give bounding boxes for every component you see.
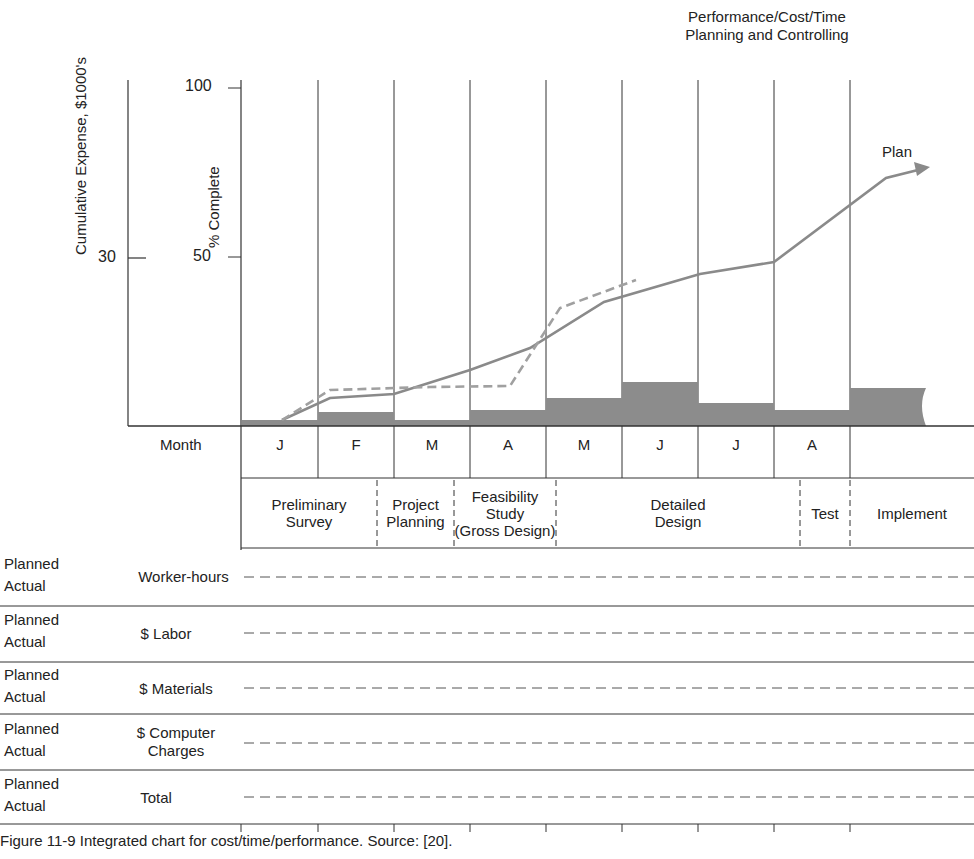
phase-line: Implement	[850, 505, 974, 522]
figure-caption: Figure 11-9 Integrated chart for cost/ti…	[0, 832, 452, 849]
month-may: M	[546, 436, 622, 453]
planned-label: Planned	[4, 718, 59, 740]
row-labor-labels: Planned Actual	[4, 609, 59, 653]
row-total-category: Total	[126, 789, 186, 807]
planned-label: Planned	[4, 773, 59, 795]
phase-line: Preliminary	[241, 496, 377, 513]
phase-project-planning: Project Planning	[377, 496, 454, 530]
category-line: $ Labor	[126, 625, 206, 643]
phase-implement: Implement	[850, 505, 974, 522]
category-line: $ Computer	[126, 724, 226, 742]
actual-label: Actual	[4, 795, 59, 817]
month-feb: F	[318, 436, 394, 453]
phase-line: Test	[800, 505, 850, 522]
phase-line: Project	[377, 496, 454, 513]
category-line: Worker-hours	[126, 568, 241, 586]
phase-line: Planning	[377, 513, 454, 530]
planned-label: Planned	[4, 664, 59, 686]
month-aug: A	[774, 436, 850, 453]
phase-preliminary-survey: Preliminary Survey	[241, 496, 377, 530]
row-worker-hours-category: Worker-hours	[126, 568, 241, 586]
actual-label: Actual	[4, 575, 59, 597]
month-axis-label: Month	[160, 436, 202, 453]
planned-label: Planned	[4, 553, 59, 575]
phase-detailed-design: Detailed Design	[556, 496, 800, 530]
month-jan: J	[242, 436, 318, 453]
category-line: Total	[126, 789, 186, 807]
inner-y-axis-label: % Complete	[205, 166, 222, 248]
phase-line: (Gross Design)	[454, 522, 556, 539]
month-apr: A	[470, 436, 546, 453]
outer-y-axis-label: Cumulative Expense, $1000's	[72, 57, 89, 255]
phase-line: Design	[556, 513, 800, 530]
phase-line: Study	[454, 505, 556, 522]
actual-label: Actual	[4, 631, 59, 653]
plan-annotation: Plan	[882, 143, 912, 160]
row-labor-category: $ Labor	[126, 625, 206, 643]
month-jul: J	[698, 436, 774, 453]
row-materials-labels: Planned Actual	[4, 664, 59, 708]
planned-label: Planned	[4, 609, 59, 631]
month-jun: J	[622, 436, 698, 453]
phase-line: Detailed	[556, 496, 800, 513]
inner-tick-100: 100	[185, 77, 212, 95]
row-computer-charges-category: $ Computer Charges	[126, 724, 226, 760]
row-materials-category: $ Materials	[126, 680, 226, 698]
month-mar: M	[394, 436, 470, 453]
row-worker-hours-labels: Planned Actual	[4, 553, 59, 597]
actual-label: Actual	[4, 686, 59, 708]
row-computer-charges-labels: Planned Actual	[4, 718, 59, 762]
phase-line: Feasibility	[454, 488, 556, 505]
phase-feasibility-study: Feasibility Study (Gross Design)	[454, 488, 556, 539]
category-line: $ Materials	[126, 680, 226, 698]
phase-test: Test	[800, 505, 850, 522]
actual-label: Actual	[4, 740, 59, 762]
outer-tick-30: 30	[98, 248, 116, 266]
inner-tick-50: 50	[193, 247, 211, 265]
category-line: Charges	[126, 742, 226, 760]
phase-line: Survey	[241, 513, 377, 530]
row-total-labels: Planned Actual	[4, 773, 59, 817]
